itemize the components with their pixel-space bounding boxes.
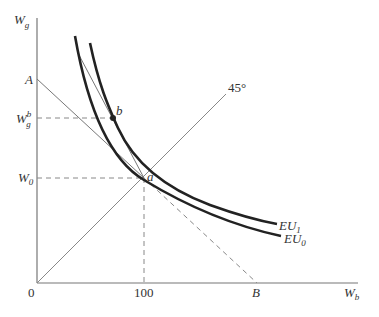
- label-b: b: [116, 103, 123, 118]
- label-B: B: [252, 285, 260, 300]
- label-w0: W0: [18, 170, 34, 187]
- label-a: a: [147, 169, 154, 184]
- label-eu0: EU0: [283, 231, 306, 248]
- label-45-degrees: 45°: [228, 80, 246, 95]
- label-A: A: [24, 72, 33, 87]
- expected-utility-diagram: Wg A Wbg b W0 a 45° EU1 EU0 0 100 B Wb: [0, 0, 379, 317]
- budget-line-solid: [37, 79, 144, 178]
- x-axis-label: Wb: [344, 285, 360, 302]
- eu0-curve: [75, 36, 281, 236]
- y-axis-label: Wg: [14, 12, 30, 30]
- forty-five-degree-line: [37, 94, 226, 283]
- origin-label: 0: [28, 285, 35, 300]
- label-wgb: Wbg: [16, 109, 32, 129]
- eu1-curve: [90, 43, 277, 224]
- x-tick-100: 100: [134, 285, 154, 300]
- budget-line-dashed: [144, 178, 257, 283]
